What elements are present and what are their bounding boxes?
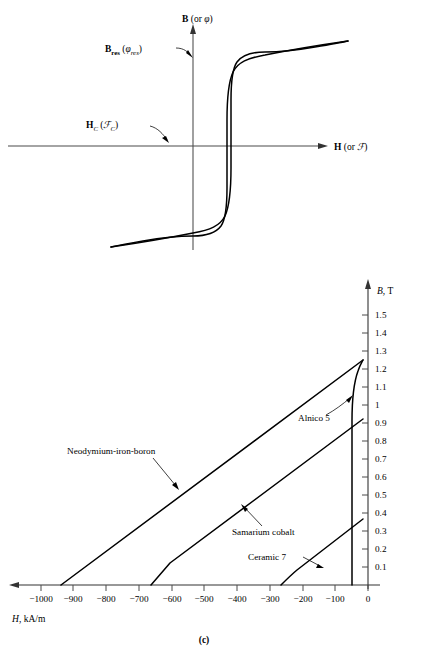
hysteresis-lower-branch [111,41,348,247]
svg-text:0.3: 0.3 [375,526,387,536]
svg-text:Neodymium-iron-boron: Neodymium-iron-boron [67,446,156,456]
svg-text:−900: −900 [64,594,83,604]
svg-text:0.8: 0.8 [375,436,387,446]
svg-text:−300: −300 [261,594,280,604]
svg-text:−600: −600 [163,594,182,604]
panel-b-b-axis-label: B (or φ) [182,14,213,25]
svg-text:Bres (φres): Bres (φres) [105,44,142,56]
panel-b-b-axis [190,24,196,250]
panel-c-x-ticks [41,585,368,591]
panel-b-h-axis-label: H (or ℱ) [334,141,367,153]
panel-c-y-tick-labels: 0.1 0.2 0.3 0.4 0.5 0.6 0.7 0.8 0.9 1 1.… [375,310,387,572]
label-alnico-5: Alnico 5 [298,395,353,423]
svg-text:HC (ℱC): HC (ℱC) [86,119,118,132]
svg-text:0.2: 0.2 [375,544,387,554]
svg-text:−400: −400 [228,594,247,604]
panel-c-label: (c) [199,635,210,646]
svg-text:1.2: 1.2 [375,364,387,374]
svg-text:−100: −100 [326,594,345,604]
svg-text:0.6: 0.6 [375,472,387,482]
label-neodymium-iron-boron: Neodymium-iron-boron [67,446,179,490]
b-res-annotation: Bres (φres) [105,44,193,58]
svg-text:−800: −800 [97,594,116,604]
svg-text:Ceramic 7: Ceramic 7 [248,552,286,562]
svg-text:0.5: 0.5 [375,490,387,500]
svg-text:−200: −200 [294,594,313,604]
svg-text:1: 1 [375,400,380,410]
panel-c-y-ticks [362,315,368,567]
panel-c-demagnetization-chart: −1000 −900 −800 −700 −600 −500 −400 −300… [0,258,421,648]
svg-text:Samarium cobalt: Samarium cobalt [232,527,295,537]
svg-text:−1000: −1000 [29,594,53,604]
svg-text:−500: −500 [195,594,214,604]
svg-text:1.4: 1.4 [375,328,387,338]
svg-text:−700: −700 [130,594,149,604]
hysteresis-upper-branch [111,41,348,247]
label-ceramic-7: Ceramic 7 [248,552,324,568]
panel-b-h-axis [8,143,328,149]
svg-text:0.1: 0.1 [375,562,387,572]
svg-text:Alnico 5: Alnico 5 [298,413,330,423]
panel-c-y-axis-label: B, T [377,286,393,296]
h-c-annotation: HC (ℱC) [86,119,169,143]
panel-c-x-tick-labels: −1000 −900 −800 −700 −600 −500 −400 −300… [29,594,370,604]
svg-text:0.7: 0.7 [375,454,387,464]
curve-neodymium-iron-boron [61,360,363,585]
svg-text:1.3: 1.3 [375,346,387,356]
panel-c-b-axis [365,279,371,589]
svg-text:0.9: 0.9 [375,418,387,428]
svg-text:1.1: 1.1 [375,382,387,392]
panel-c-x-axis-label: H, kA/m [11,614,46,624]
svg-text:1.5: 1.5 [375,310,387,320]
curve-alnico-5 [352,360,363,585]
panel-b-hysteresis-loop: Bres (φres) HC (ℱC) B (or φ) H (or ℱ) (b… [0,0,421,258]
svg-text:0.4: 0.4 [375,508,387,518]
svg-text:0: 0 [366,594,371,604]
figure-root: Bres (φres) HC (ℱC) B (or φ) H (or ℱ) (b… [0,0,421,648]
